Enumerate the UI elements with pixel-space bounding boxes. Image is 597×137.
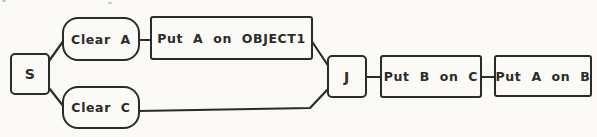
scan-speck [2,0,6,2]
node-put-a-on-b-label: Put A on B [496,69,591,84]
node-clear-c: Clear C [62,86,140,129]
node-s: S [10,53,50,95]
node-put-b-on-c: Put B on C [380,55,482,98]
node-clear-a-label: Clear A [71,32,131,47]
node-put-a-on-object1-label: Put A on OBJECT1 [157,31,306,46]
node-clear-a: Clear A [62,17,140,61]
edge-clear-c-to-j [138,88,329,111]
node-put-b-on-c-label: Put B on C [384,69,478,84]
node-s-label: S [25,66,36,82]
node-put-a-on-b: Put A on B [494,55,592,97]
node-put-a-on-object1: Put A on OBJECT1 [150,16,313,60]
procedural-net-diagram: S Clear A Put A on OBJECT1 Clear C J Put… [0,0,597,137]
node-j-label: J [344,69,350,85]
scan-speck [108,2,112,4]
node-clear-c-label: Clear C [71,100,130,115]
node-j: J [327,55,367,98]
